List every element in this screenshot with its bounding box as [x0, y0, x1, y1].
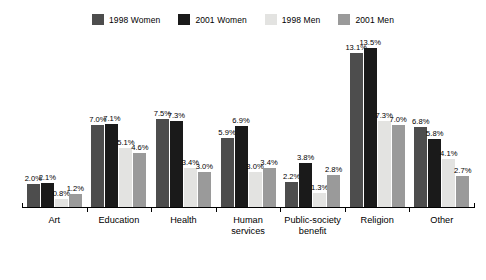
legend-item-1998-men: 1998 Men: [265, 14, 321, 25]
bar-column: 3.0%: [198, 36, 211, 208]
bar-value-label: 7.3%: [168, 111, 185, 120]
category-label: Public-societybenefit: [280, 210, 345, 242]
bar: [263, 168, 276, 208]
bar: [327, 175, 340, 208]
bar: [414, 127, 427, 208]
bar-column: 7.0%: [392, 36, 405, 208]
bar-column: 7.5%: [156, 36, 169, 208]
bar: [133, 153, 146, 208]
bar: [313, 193, 326, 208]
category-label: Art: [22, 210, 87, 242]
legend-label-1998-women: 1998 Women: [109, 15, 160, 25]
bar-column: 13.1%: [350, 36, 363, 208]
bar-column: 4.1%: [442, 36, 455, 208]
bar-value-label: 6.8%: [412, 117, 429, 126]
legend-label-1998-men: 1998 Men: [282, 15, 321, 25]
bar-group: 2.2%3.8%1.3%2.8%: [280, 36, 345, 208]
bar-column: 7.1%: [105, 36, 118, 208]
plot-area: 2.0%2.1%0.8%1.2%7.0%7.1%5.1%4.6%7.5%7.3%…: [22, 36, 474, 242]
bar-value-label: 3.0%: [196, 162, 213, 171]
bar-value-label: 5.9%: [218, 128, 235, 137]
grouped-bar-chart: 1998 Women 2001 Women 1998 Men 2001 Men …: [0, 0, 486, 280]
bar-value-label: 2.2%: [283, 172, 300, 181]
bar: [105, 124, 118, 208]
bar-column: 3.0%: [249, 36, 262, 208]
bar-column: 1.3%: [313, 36, 326, 208]
bar-value-label: 1.3%: [311, 183, 328, 192]
legend-swatch-1998-men: [265, 14, 277, 25]
bar-column: 1.2%: [69, 36, 82, 208]
category-labels: ArtEducationHealthHumanservicesPublic-so…: [22, 210, 474, 242]
category-label: Other: [409, 210, 474, 242]
bar-column: 0.8%: [55, 36, 68, 208]
category-label: Humanservices: [216, 210, 281, 242]
bar-group: 7.0%7.1%5.1%4.6%: [87, 36, 152, 208]
legend-swatch-2001-men: [338, 14, 350, 25]
bar-column: 7.3%: [170, 36, 183, 208]
chart-legend: 1998 Women 2001 Women 1998 Men 2001 Men: [0, 14, 486, 25]
bar-value-label: 4.1%: [440, 149, 457, 158]
legend-item-2001-men: 2001 Men: [338, 14, 394, 25]
bar-column: 2.2%: [285, 36, 298, 208]
category-label: Religion: [345, 210, 410, 242]
bar-value-label: 5.8%: [426, 129, 443, 138]
bar-group: 7.5%7.3%3.4%3.0%: [151, 36, 216, 208]
legend-item-1998-women: 1998 Women: [92, 14, 160, 25]
bar: [392, 125, 405, 208]
bar-column: 2.0%: [27, 36, 40, 208]
bar-column: 2.1%: [41, 36, 54, 208]
category-label: Health: [151, 210, 216, 242]
legend-swatch-1998-women: [92, 14, 104, 25]
x-axis-line: [22, 207, 474, 208]
bar: [350, 53, 363, 208]
bar: [221, 138, 234, 208]
bar-value-label: 4.6%: [131, 143, 148, 152]
bar-column: 6.9%: [235, 36, 248, 208]
bar-column: 6.8%: [414, 36, 427, 208]
bar-value-label: 3.8%: [297, 153, 314, 162]
bar-column: 4.6%: [133, 36, 146, 208]
bar-groups: 2.0%2.1%0.8%1.2%7.0%7.1%5.1%4.6%7.5%7.3%…: [22, 36, 474, 208]
bar-column: 5.1%: [119, 36, 132, 208]
bar: [285, 182, 298, 208]
bar: [27, 184, 40, 208]
bar-value-label: 2.7%: [454, 166, 471, 175]
category-label: Education: [87, 210, 152, 242]
bar: [91, 125, 104, 208]
bar: [198, 172, 211, 208]
bar-column: 2.8%: [327, 36, 340, 208]
bar-group: 6.8%5.8%4.1%2.7%: [409, 36, 474, 208]
bar-group: 5.9%6.9%3.0%3.4%: [216, 36, 281, 208]
bar: [184, 168, 197, 208]
bar-value-label: 2.8%: [325, 165, 342, 174]
bar-group: 2.0%2.1%0.8%1.2%: [22, 36, 87, 208]
bar-column: 13.5%: [364, 36, 377, 208]
legend-label-2001-men: 2001 Men: [355, 15, 394, 25]
bar-value-label: 7.1%: [103, 114, 120, 123]
bar-value-label: 6.9%: [232, 116, 249, 125]
bar-column: 2.7%: [456, 36, 469, 208]
bar-value-label: 2.1%: [39, 173, 56, 182]
bar-value-label: 3.4%: [260, 158, 277, 167]
axis-end-cap: [474, 203, 475, 208]
bar-group: 13.1%13.5%7.3%7.0%: [345, 36, 410, 208]
bar: [69, 194, 82, 208]
bar: [456, 176, 469, 208]
legend-swatch-2001-women: [178, 14, 190, 25]
bar: [156, 119, 169, 208]
bar: [119, 148, 132, 208]
bar-column: 3.4%: [184, 36, 197, 208]
legend-item-2001-women: 2001 Women: [178, 14, 246, 25]
axis-end-cap: [22, 203, 23, 208]
bar-value-label: 7.0%: [390, 115, 407, 124]
legend-label-2001-women: 2001 Women: [195, 15, 246, 25]
bar: [378, 121, 391, 208]
bar-column: 3.4%: [263, 36, 276, 208]
bar: [249, 172, 262, 208]
bar-value-label: 1.2%: [67, 184, 84, 193]
bar-column: 5.8%: [428, 36, 441, 208]
bar: [364, 48, 377, 208]
